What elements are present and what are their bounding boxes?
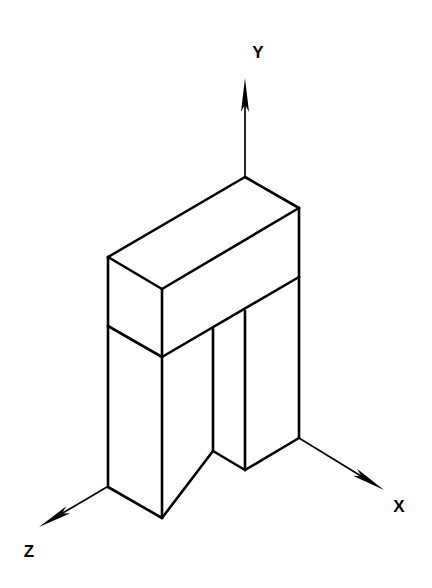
z-axis-line [61, 487, 107, 514]
isometric-figure: Y X Z [0, 0, 432, 588]
x-axis-line [299, 438, 362, 476]
face-left-leg-front [162, 329, 213, 518]
face-right-leg-front [245, 277, 299, 470]
y-axis [241, 78, 249, 177]
face-slot-inner [213, 311, 245, 470]
z-axis-arrowhead-icon [39, 506, 70, 527]
axis-label-y: Y [252, 43, 264, 62]
isometric-drawing-canvas: Y X Z [0, 0, 432, 588]
axis-label-x: X [393, 497, 405, 516]
axis-label-z: Z [24, 542, 34, 561]
face-left-leg-side [108, 326, 162, 518]
z-axis [39, 487, 107, 527]
x-axis-arrowhead-icon [353, 469, 384, 490]
x-axis [299, 438, 384, 490]
solid-faces [108, 177, 299, 518]
